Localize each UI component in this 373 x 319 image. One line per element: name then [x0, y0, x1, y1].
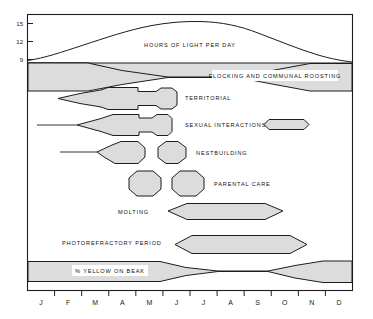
- parental-label: PARENTAL CARE: [214, 181, 271, 187]
- photorefract-label: PHOTOREFRACTORY PERIOD: [62, 240, 162, 246]
- band-photorefract: PHOTOREFRACTORY PERIOD: [62, 236, 307, 254]
- y-tick-label-12: 12: [16, 39, 23, 45]
- x-axis: JFMAMJJASOND: [39, 291, 341, 306]
- x-month-label-4: M: [146, 299, 152, 306]
- sexual-blob: [77, 115, 172, 136]
- sexual-label: SEXUAL INTERACTIONS: [185, 122, 266, 128]
- band-nestbuilding: NESTBUILDING: [60, 142, 248, 164]
- band-molting: MOLTING: [118, 204, 283, 220]
- nestbuilding-blob-1: [97, 142, 145, 164]
- x-month-label-8: S: [255, 299, 260, 306]
- molting-label: MOLTING: [118, 209, 149, 215]
- x-month-label-7: A: [228, 299, 233, 306]
- sexual-autumn-blob: [264, 120, 309, 130]
- territorial-label: TERRITORIAL: [185, 95, 231, 101]
- diagram-canvas: 15 12 9 HOURS OF LIGHT PER DAY FLOCKING …: [0, 0, 373, 319]
- y-tick-label-9: 9: [20, 57, 24, 63]
- band-yellowbeak: % YELLOW ON BEAK: [28, 261, 352, 283]
- x-month-label-3: A: [120, 299, 125, 306]
- annual-cycle-figure: 15 12 9 HOURS OF LIGHT PER DAY FLOCKING …: [0, 0, 373, 319]
- photorefract-blob: [175, 236, 307, 254]
- flocking-label: FLOCKING AND COMMUNAL ROOSTING: [209, 73, 342, 79]
- x-month-label-11: D: [336, 299, 341, 306]
- y-axis: 15 12 9: [16, 21, 33, 63]
- nestbuilding-blob-2: [158, 142, 186, 164]
- band-parental: PARENTAL CARE: [129, 171, 271, 196]
- band-sexual: SEXUAL INTERACTIONS: [37, 115, 309, 136]
- band-photoperiod: HOURS OF LIGHT PER DAY: [28, 21, 353, 62]
- band-flocking: FLOCKING AND COMMUNAL ROOSTING: [28, 63, 352, 91]
- x-month-label-9: O: [282, 299, 288, 306]
- parental-blob-1: [129, 171, 161, 196]
- nestbuilding-label: NESTBUILDING: [196, 150, 248, 156]
- x-month-label-5: J: [175, 299, 179, 306]
- photoperiod-label: HOURS OF LIGHT PER DAY: [144, 42, 236, 48]
- yellowbeak-label: % YELLOW ON BEAK: [75, 268, 145, 274]
- x-month-label-10: N: [309, 299, 314, 306]
- x-month-label-6: J: [202, 299, 206, 306]
- x-month-label-1: F: [66, 299, 70, 306]
- x-month-label-2: M: [92, 299, 98, 306]
- x-month-label-0: J: [39, 299, 43, 306]
- parental-blob-2: [172, 171, 204, 196]
- y-tick-label-15: 15: [16, 21, 23, 27]
- molting-blob: [168, 204, 283, 220]
